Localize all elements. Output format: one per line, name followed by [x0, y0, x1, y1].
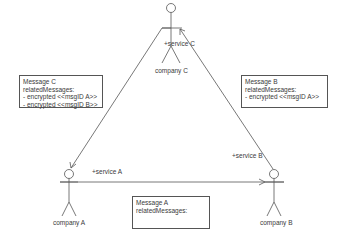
note-c-item: - encrypted <<msgID B>>	[23, 101, 99, 109]
note-c-subtitle: relatedMessages:	[23, 86, 99, 94]
note-a-title: Message A	[136, 199, 206, 207]
actor-company-a-icon	[60, 170, 78, 217]
actor-a-name: company A	[53, 219, 85, 227]
service-c-label: +service C	[164, 40, 195, 48]
note-message-a: Message A relatedMessages:	[132, 196, 210, 229]
note-c-item: - encrypted <<msgID A>>	[23, 93, 99, 101]
actor-c-name: company C	[155, 67, 188, 75]
service-b-label: +service B	[232, 152, 263, 160]
note-message-c: Message C relatedMessages: - encrypted <…	[19, 75, 103, 108]
actor-company-c-icon	[162, 4, 182, 64]
service-a-label: +service A	[92, 168, 122, 176]
association-a-to-b	[60, 179, 284, 185]
actor-b-name: company B	[260, 219, 293, 227]
note-message-b: Message B relatedMessages: - encrypted <…	[241, 75, 328, 108]
note-c-title: Message C	[23, 78, 99, 86]
note-b-item: - encrypted <<msgID A>>	[245, 93, 324, 101]
actor-company-b-icon	[265, 170, 284, 217]
note-b-title: Message B	[245, 78, 324, 86]
note-a-subtitle: relatedMessages:	[136, 207, 206, 215]
note-b-subtitle: relatedMessages:	[245, 86, 324, 94]
